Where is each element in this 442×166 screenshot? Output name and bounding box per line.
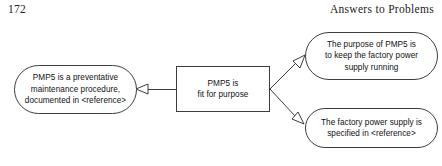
node-claim[interactable]: PMP5 is fit for purpose: [176, 66, 270, 112]
page-canvas: 172 Answers to Problems PMP5 is fit for …: [0, 0, 442, 166]
node-purpose[interactable]: The purpose of PMP5 is to keep the facto…: [305, 32, 438, 80]
connector-claim-to-evidence: [136, 84, 176, 94]
node-specification[interactable]: The factory power supply is specified in…: [305, 108, 438, 148]
node-evidence-label: PMP5 is a preventative maintenance proce…: [22, 72, 129, 106]
node-purpose-label: The purpose of PMP5 is to keep the facto…: [313, 39, 430, 73]
arrowhead-purpose: [293, 55, 305, 68]
arrowhead-evidence: [136, 84, 148, 94]
node-evidence[interactable]: PMP5 is a preventative maintenance proce…: [14, 65, 137, 114]
node-claim-label: PMP5 is fit for purpose: [184, 78, 262, 101]
connector-claim-to-specification: [270, 89, 304, 124]
node-specification-label: The factory power supply is specified in…: [313, 117, 430, 140]
arrowhead-specification: [292, 112, 304, 124]
connector-claim-to-purpose: [270, 55, 305, 89]
